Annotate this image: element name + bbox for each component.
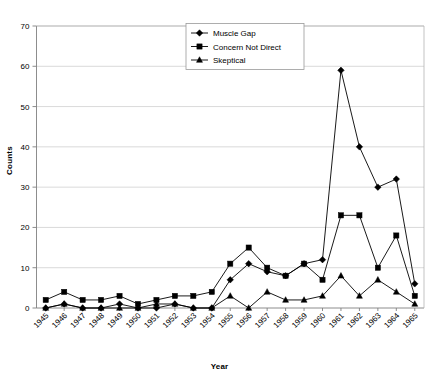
x-axis-tick-label: 1965 xyxy=(401,311,420,330)
data-series xyxy=(42,67,418,311)
data-point-marker xyxy=(375,277,381,283)
data-point-marker xyxy=(172,293,177,298)
y-axis-tick-label: 40 xyxy=(21,143,30,152)
x-axis-tick-label: 1959 xyxy=(290,311,309,330)
x-axis-tick-label: 1960 xyxy=(308,311,327,330)
series-line xyxy=(46,70,415,308)
data-point-marker xyxy=(117,293,122,298)
series-line xyxy=(46,215,415,304)
data-point-marker xyxy=(62,289,67,294)
data-point-marker xyxy=(209,289,214,294)
data-point-marker xyxy=(80,297,85,302)
legend-item-label: Concern Not Direct xyxy=(213,43,282,52)
data-point-marker xyxy=(375,184,382,191)
data-point-marker xyxy=(264,289,270,295)
data-point-marker xyxy=(301,261,306,266)
y-axis-tick-label: 70 xyxy=(21,22,30,31)
y-axis-tick-label: 20 xyxy=(21,223,30,232)
x-axis-tick-label: 1964 xyxy=(382,311,401,330)
y-axis-ticks: 010203040506070 xyxy=(21,22,37,313)
x-axis-tick-label: 1953 xyxy=(179,311,198,330)
data-point-marker xyxy=(246,245,251,250)
y-axis-tick-label: 0 xyxy=(25,304,30,313)
data-point-marker xyxy=(228,261,233,266)
data-point-marker xyxy=(283,273,288,278)
legend-item-label: Skeptical xyxy=(213,56,246,65)
data-point-marker xyxy=(43,297,48,302)
x-axis-title: Year xyxy=(211,362,229,371)
data-point-marker xyxy=(227,293,233,299)
legend-item-label: Muscle Gap xyxy=(213,29,256,38)
x-axis-tick-label: 1945 xyxy=(32,311,51,330)
data-point-marker xyxy=(319,256,326,263)
x-axis-tick-label: 1955 xyxy=(216,311,235,330)
x-axis-tick-label: 1954 xyxy=(198,311,217,330)
y-axis-tick-label: 60 xyxy=(21,62,30,71)
data-point-marker xyxy=(117,305,123,311)
y-axis-tick-label: 30 xyxy=(21,183,30,192)
x-axis-tick-label: 1958 xyxy=(272,311,291,330)
data-point-marker xyxy=(338,213,343,218)
data-point-marker xyxy=(265,265,270,270)
data-point-marker xyxy=(394,233,399,238)
y-axis-tick-label: 50 xyxy=(21,103,30,112)
data-point-marker xyxy=(393,289,399,295)
data-point-marker xyxy=(338,67,345,74)
data-point-marker xyxy=(412,301,418,307)
data-point-marker xyxy=(375,265,380,270)
x-axis-tick-label: 1962 xyxy=(345,311,364,330)
x-axis-tick-label: 1952 xyxy=(161,311,180,330)
data-point-marker xyxy=(412,293,417,298)
chart-plot-area: 010203040506070 194519461947194819491950… xyxy=(0,0,439,380)
x-axis-tick-label: 1947 xyxy=(69,311,88,330)
x-axis-tick-label: 1950 xyxy=(124,311,143,330)
series-muscle-gap xyxy=(42,67,418,311)
data-point-marker xyxy=(393,176,400,183)
x-axis-tick-label: 1956 xyxy=(235,311,254,330)
x-axis-tick-label: 1949 xyxy=(106,311,125,330)
data-point-marker xyxy=(338,273,344,279)
data-point-marker xyxy=(191,293,196,298)
x-axis-tick-label: 1946 xyxy=(50,311,69,330)
data-point-marker xyxy=(356,144,363,151)
data-point-marker xyxy=(357,213,362,218)
data-point-marker xyxy=(98,297,103,302)
chart-container: Counts 010203040506070 19451946194719481… xyxy=(0,0,439,380)
x-axis-ticks: 1945194619471948194919501951195219531954… xyxy=(32,308,420,330)
y-axis-tick-label: 10 xyxy=(21,264,30,273)
data-point-marker xyxy=(412,281,419,288)
data-point-marker xyxy=(320,277,325,282)
x-axis-tick-label: 1948 xyxy=(87,311,106,330)
chart-legend: Muscle GapConcern Not DirectSkeptical xyxy=(186,24,304,70)
x-axis-tick-label: 1963 xyxy=(364,311,383,330)
x-axis-tick-label: 1961 xyxy=(327,311,346,330)
x-axis-tick-label: 1957 xyxy=(253,311,272,330)
x-axis-title-container: Year xyxy=(0,355,439,373)
x-axis-tick-label: 1951 xyxy=(142,311,161,330)
data-point-marker xyxy=(197,44,202,49)
